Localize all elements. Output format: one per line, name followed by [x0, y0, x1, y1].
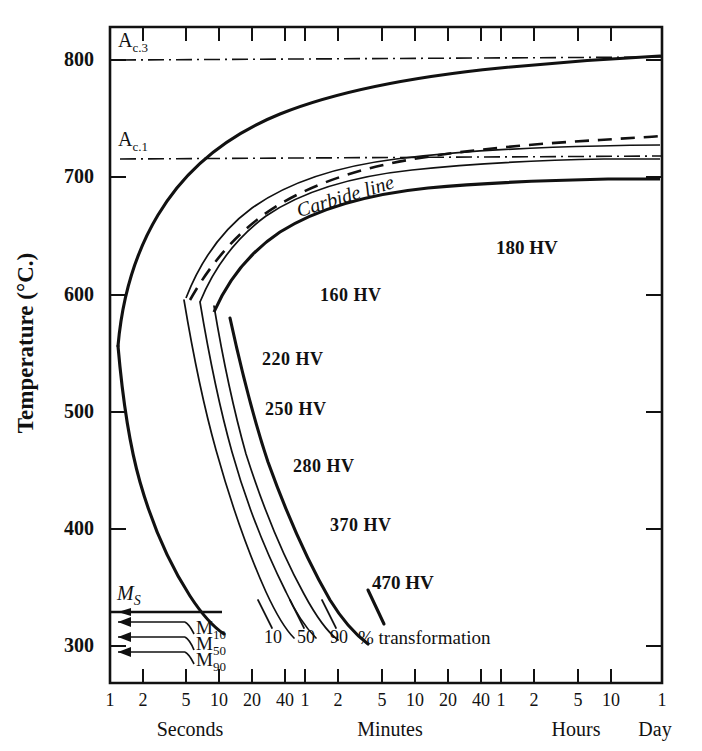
ac1-label-main: A [118, 128, 132, 150]
label-370hv: 370 HV [330, 516, 392, 534]
carbide-line [190, 136, 660, 300]
x-axis-group-seconds: Seconds [120, 719, 260, 739]
pct-label-50: 50 [291, 628, 321, 646]
y-tick-label-600: 600 [34, 284, 94, 304]
ac3-label-sub: c.3 [132, 40, 148, 55]
ac1-reference-line [120, 156, 662, 159]
m90-arrow [118, 647, 194, 664]
ac3-label-main: A [118, 29, 132, 51]
x-axis-group-minutes: Minutes [320, 719, 460, 739]
ms-label-sub: S [134, 593, 141, 608]
x-tick-label-7: 2 [318, 691, 358, 709]
m50-arrow [118, 632, 194, 650]
label-160hv: 160 HV [320, 286, 382, 304]
pct-label-10: 10 [258, 628, 288, 646]
y-tick-label-800: 800 [34, 49, 94, 69]
m90-label: M90 [196, 650, 226, 673]
x-axis-ticks-top [143, 27, 611, 41]
curve-160hv [186, 145, 660, 298]
ms-label: MS [117, 583, 141, 608]
x-tick-label-13: 2 [514, 691, 554, 709]
m90-label-sub: 90 [213, 659, 226, 674]
ms-label-main: M [117, 582, 134, 604]
x-tick-label-1: 2 [123, 691, 163, 709]
label-220hv: 220 HV [262, 350, 324, 368]
y-tick-label-400: 400 [34, 518, 94, 538]
pct-label-90: 90 [324, 628, 354, 646]
y-tick-label-300: 300 [34, 635, 94, 655]
x-tick-label-16: 1 [642, 691, 682, 709]
ac1-label-sub: c.1 [132, 139, 148, 154]
curve-220hv [214, 179, 660, 312]
label-280hv: 280 HV [293, 457, 355, 475]
label-250hv: 250 HV [265, 400, 327, 418]
x-axis-ticks-bottom [110, 669, 662, 683]
y-tick-label-500: 500 [34, 401, 94, 421]
pct-transformation-caption: % transformation [358, 628, 490, 647]
ms-arrow [118, 608, 131, 616]
y-axis-ticks-right [646, 60, 662, 646]
ac3-label: Ac.3 [118, 30, 148, 54]
ttt-diagram: Temperature (°C.) 800 700 600 500 400 30… [0, 0, 702, 751]
m10-arrow [118, 617, 194, 634]
x-axis-group-day: Day [585, 719, 702, 739]
ac1-label: Ac.1 [118, 129, 148, 153]
label-180hv: 180 HV [496, 238, 558, 257]
x-tick-label-15: 10 [591, 691, 631, 709]
label-470hv: 470 HV [372, 573, 434, 592]
y-tick-label-700: 700 [34, 166, 94, 186]
m90-label-main: M [196, 649, 213, 670]
